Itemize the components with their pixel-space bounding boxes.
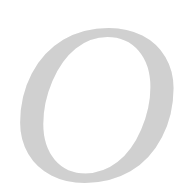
large-italic-letter-o: O <box>8 0 179 190</box>
letter-canvas: O <box>0 0 181 190</box>
